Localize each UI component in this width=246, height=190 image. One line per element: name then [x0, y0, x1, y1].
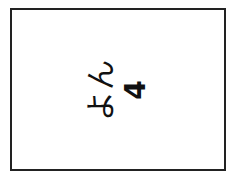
flash-card: よん 4 — [10, 8, 226, 171]
numeral: 4 — [122, 80, 150, 99]
rotated-content: よん 4 — [86, 59, 150, 121]
hiragana-word: よん — [86, 59, 116, 121]
